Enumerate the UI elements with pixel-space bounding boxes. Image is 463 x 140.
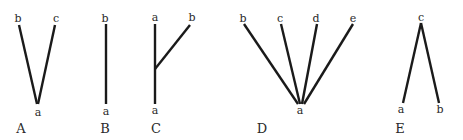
node-label-b: b xyxy=(101,12,108,25)
node-label-c: c xyxy=(418,11,424,24)
panel-label-e: E xyxy=(395,121,405,136)
panel-label-b: B xyxy=(100,121,110,136)
edge-a-c xyxy=(38,25,55,104)
node-label-a: a xyxy=(398,103,405,116)
edge-a-b xyxy=(155,25,190,69)
edge-c-b xyxy=(421,23,439,103)
panel-b: b a B xyxy=(100,12,110,136)
edge-a-d xyxy=(302,24,317,104)
node-label-a: a xyxy=(103,105,110,118)
panel-label-d: D xyxy=(257,121,267,136)
panel-c: a b a C xyxy=(151,11,196,136)
tree-diagram-figure: b c a A b a B a b a C b c d e a D c a b xyxy=(0,0,463,140)
node-label-b: b xyxy=(239,12,246,25)
node-label-a-top: a xyxy=(152,11,159,24)
node-label-e: e xyxy=(350,12,357,25)
panel-label-a: A xyxy=(15,121,26,136)
node-label-b: b xyxy=(188,11,195,24)
edge-a-b xyxy=(19,25,37,104)
edge-a-e xyxy=(304,24,353,104)
node-label-b: b xyxy=(436,103,443,116)
panel-a: b c a A xyxy=(14,12,59,136)
node-label-c: c xyxy=(277,12,283,25)
node-label-c: c xyxy=(53,12,59,25)
edge-c-a xyxy=(403,23,421,103)
node-label-b: b xyxy=(14,12,21,25)
node-label-d: d xyxy=(312,12,319,25)
panel-d: b c d e a D xyxy=(239,12,356,136)
node-label-a: a xyxy=(297,104,304,117)
node-label-a-bottom: a xyxy=(152,104,159,117)
node-label-a: a xyxy=(35,106,42,119)
panel-e: c a b E xyxy=(395,11,443,136)
panel-label-c: C xyxy=(151,121,161,136)
